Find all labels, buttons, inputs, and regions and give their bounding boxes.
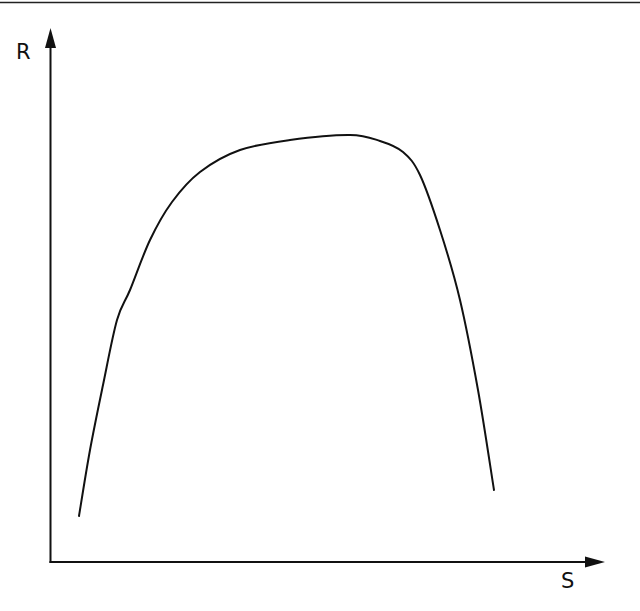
response-curve (79, 135, 494, 516)
x-axis-arrow-icon (585, 557, 605, 568)
diagram-canvas (0, 0, 640, 611)
y-axis-label: R (16, 42, 31, 63)
y-axis-arrow-icon (45, 28, 56, 48)
x-axis-label: S (561, 571, 574, 592)
